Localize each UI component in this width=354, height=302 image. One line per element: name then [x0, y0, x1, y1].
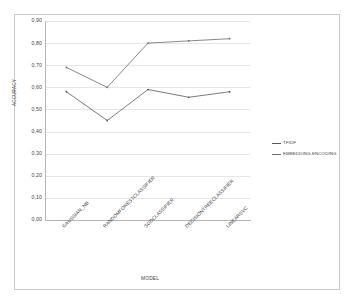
- legend-line-swatch: [272, 154, 281, 155]
- legend-entry: TFIDF: [272, 139, 352, 148]
- chart-legend: TFIDFEMBEDDING-ENCODING: [272, 139, 352, 161]
- legend-line-swatch: [272, 143, 281, 144]
- legend-label: TFIDF: [283, 141, 296, 145]
- chart-container: 0,900,800,700,600,500,400,300,200,100,00…: [0, 0, 354, 302]
- x-axis-tick-label: SGDCLASSIFIER: [144, 198, 175, 229]
- x-axis-title: MODEL: [141, 277, 159, 282]
- legend-label: EMBEDDING-ENCODING: [283, 152, 337, 156]
- legend-entry: EMBEDDING-ENCODING: [272, 150, 352, 159]
- x-axis-tick-label: GAUSSIAN_NB: [62, 201, 90, 229]
- x-axis-tick-label: LINEARSVC: [226, 206, 249, 229]
